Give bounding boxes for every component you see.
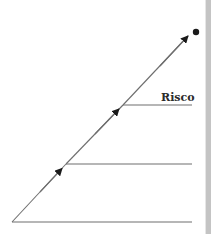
side-bar — [206, 0, 211, 234]
risk-staircase-diagram: Risco — [0, 0, 211, 234]
arrow-2 — [95, 109, 119, 134]
arrow-1 — [40, 169, 62, 193]
arrow-3 — [160, 36, 188, 66]
diagram-canvas — [0, 0, 211, 234]
risk-label: Risco — [161, 92, 195, 103]
endpoint-dot-icon — [193, 29, 199, 35]
